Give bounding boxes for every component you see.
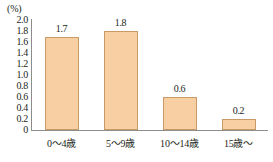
y-tick-label: 1.6 xyxy=(2,37,28,47)
bar-group: 1.8 xyxy=(104,20,138,130)
bar xyxy=(45,37,79,131)
y-tick-label: 0.2 xyxy=(2,114,28,124)
y-tick-label: 1.0 xyxy=(2,70,28,80)
y-tick-label: 1.4 xyxy=(2,48,28,58)
x-axis-category-label: 0〜4歳 xyxy=(32,138,91,149)
x-axis-category-label: 10〜14歳 xyxy=(150,138,209,149)
y-tick-label: 0.8 xyxy=(2,81,28,91)
bar-value-label: 0.2 xyxy=(233,106,245,116)
bar-value-label: 1.7 xyxy=(56,24,68,34)
bar-group: 0.2 xyxy=(222,20,256,130)
bar-value-label: 0.6 xyxy=(174,84,186,94)
y-tick-label: 1.8 xyxy=(2,26,28,36)
x-axis-category-label: 5〜9歳 xyxy=(91,138,150,149)
bar xyxy=(222,119,256,130)
y-tick-label: 2.0 xyxy=(2,15,28,25)
bar-group: 1.7 xyxy=(45,20,79,130)
bar xyxy=(104,31,138,130)
bar-group: 0.6 xyxy=(163,20,197,130)
y-tick-label: 0 xyxy=(2,125,28,135)
y-tick-label: 0.6 xyxy=(2,92,28,102)
y-tick-label: 1.2 xyxy=(2,59,28,69)
bar xyxy=(163,97,197,130)
x-axis-line xyxy=(31,130,268,131)
bar-value-label: 1.8 xyxy=(115,18,127,28)
x-axis-category-label: 15歳〜 xyxy=(209,138,268,149)
bar-chart-figure: (%) 2.01.81.61.41.21.00.80.60.40.20 1.70… xyxy=(0,0,273,162)
y-axis-tick-labels: 2.01.81.61.41.21.00.80.60.40.20 xyxy=(0,0,28,162)
y-tick-label: 0.4 xyxy=(2,103,28,113)
